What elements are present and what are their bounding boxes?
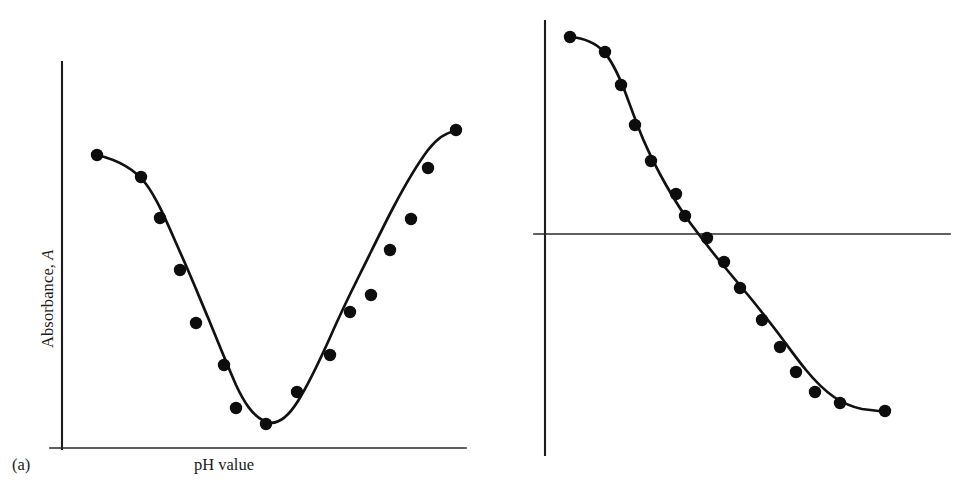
data-point [324, 349, 336, 361]
panel-a-y-axis-label-text: Absorbance, [38, 260, 57, 348]
data-point [879, 405, 891, 417]
panel-a-x-axis-label: pH value [194, 455, 254, 475]
data-point [230, 402, 242, 414]
data-point [629, 119, 641, 131]
panel-a-curve [97, 131, 456, 423]
data-point [260, 418, 272, 430]
data-point [365, 289, 377, 301]
panel-a-plot [0, 0, 490, 496]
data-point [718, 256, 730, 268]
data-point [218, 359, 230, 371]
data-point [774, 341, 786, 353]
data-point [384, 244, 396, 256]
data-point [701, 232, 713, 244]
figure-container: Absorbance, A pH value (a) [0, 0, 979, 496]
data-point [564, 31, 576, 43]
data-point [91, 149, 103, 161]
panel-b: Modified absorbance intensity, A 0 pH va… [490, 0, 979, 496]
data-point [291, 386, 303, 398]
data-point [670, 188, 682, 200]
data-point [679, 210, 691, 222]
data-point [756, 314, 768, 326]
panel-a: Absorbance, A pH value (a) [0, 0, 490, 496]
panel-b-plot [490, 0, 979, 496]
data-point [450, 124, 462, 136]
panel-a-tag: (a) [12, 455, 30, 475]
panel-b-curve [570, 37, 887, 412]
data-point [405, 213, 417, 225]
data-point [809, 386, 821, 398]
data-point [174, 264, 186, 276]
data-point [790, 366, 802, 378]
data-point [135, 171, 147, 183]
data-point [645, 155, 657, 167]
data-point [834, 397, 846, 409]
data-point [344, 306, 356, 318]
data-point [190, 317, 202, 329]
panel-a-y-axis-label-symbol: A [38, 250, 57, 260]
data-point [422, 162, 434, 174]
data-point [154, 212, 166, 224]
data-point [734, 282, 746, 294]
data-point [615, 79, 627, 91]
panel-a-y-axis-label: Absorbance, A [38, 250, 58, 348]
data-point [599, 46, 611, 58]
